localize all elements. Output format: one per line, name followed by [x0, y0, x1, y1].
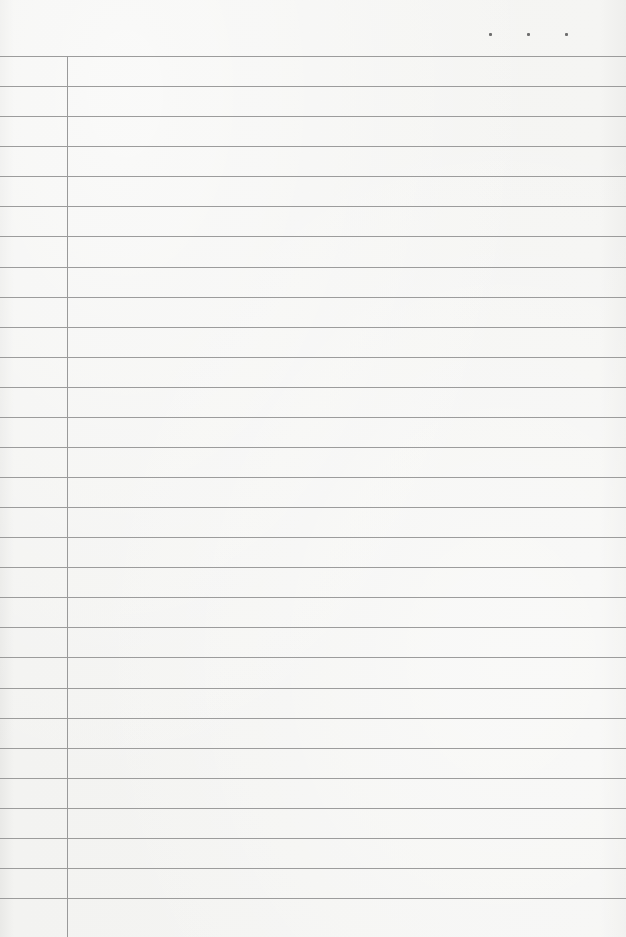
notebook-page [0, 0, 626, 937]
margin-line [67, 56, 68, 937]
writing-area [70, 56, 626, 937]
